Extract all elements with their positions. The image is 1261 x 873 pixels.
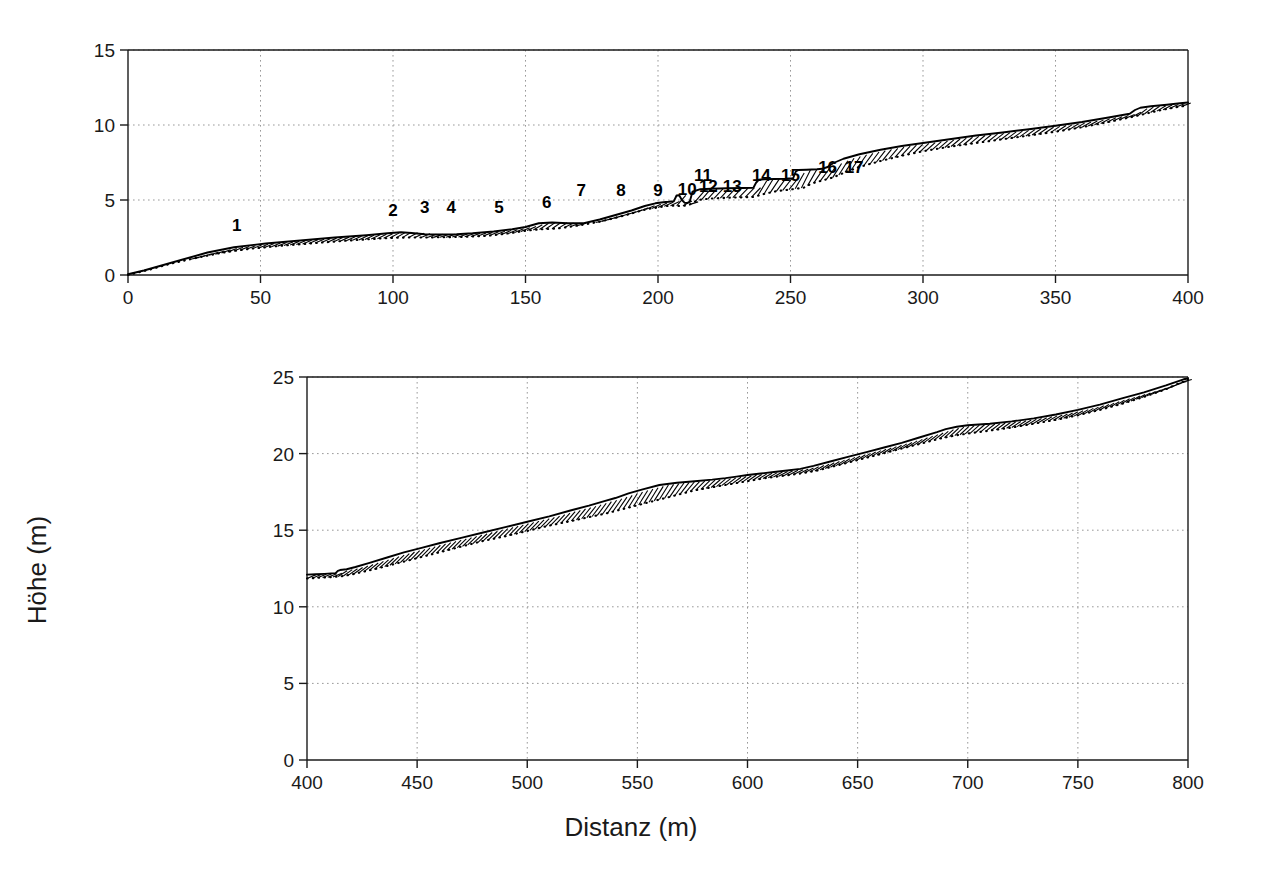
- profile-point-label: 9: [653, 181, 662, 200]
- x-axis-tick-label: 300: [907, 287, 939, 308]
- x-axis-tick-label: 500: [511, 772, 543, 793]
- x-axis-tick-label: 400: [1172, 287, 1204, 308]
- profile-point-label: 3: [420, 198, 429, 217]
- x-axis-tick-label: 200: [642, 287, 674, 308]
- y-axis-tick-label: 15: [273, 520, 294, 541]
- profile-point-label: 6: [542, 193, 551, 212]
- x-axis-tick-label: 550: [622, 772, 654, 793]
- x-axis-tick-label: 700: [952, 772, 984, 793]
- x-axis-tick-label: 450: [401, 772, 433, 793]
- x-axis-tick-label: 350: [1040, 287, 1072, 308]
- x-axis-tick-label: 400: [291, 772, 323, 793]
- x-axis-tick-label: 650: [842, 772, 874, 793]
- profile-point-label: 12: [699, 177, 718, 196]
- y-axis-tick-label: 15: [94, 40, 115, 61]
- x-axis-tick-label: 0: [123, 287, 134, 308]
- profile-point-label: 13: [723, 177, 742, 196]
- y-axis-tick-label: 5: [283, 673, 294, 694]
- x-axis-tick-label: 100: [377, 287, 409, 308]
- x-axis-tick-label: 600: [732, 772, 764, 793]
- y-axis-tick-label: 5: [104, 190, 115, 211]
- profile-point-label: 2: [388, 201, 397, 220]
- profile-point-label: 5: [494, 198, 503, 217]
- profile-point-label: 16: [818, 158, 837, 177]
- y-axis-tick-label: 0: [283, 750, 294, 771]
- terrain-profile-figure: 0510150501001502002503003504001234567891…: [0, 0, 1261, 873]
- x-axis-tick-label: 150: [510, 287, 542, 308]
- chart-page: 0510150501001502002503003504001234567891…: [0, 0, 1261, 873]
- y-axis-tick-label: 10: [94, 115, 115, 136]
- profile-point-label: 17: [845, 158, 864, 177]
- profile-point-label: 1: [232, 216, 241, 235]
- x-axis-tick-label: 250: [775, 287, 807, 308]
- x-axis-tick-label: 50: [250, 287, 271, 308]
- profile-point-label: 4: [447, 198, 457, 217]
- y-axis-tick-label: 10: [273, 597, 294, 618]
- profile-point-label: 8: [616, 181, 625, 200]
- figure-background: [0, 0, 1261, 873]
- y-axis-tick-label: 25: [273, 367, 294, 388]
- y-axis-title: Höhe (m): [22, 516, 52, 624]
- x-axis-tick-label: 800: [1172, 772, 1204, 793]
- profile-point-label: 15: [781, 166, 800, 185]
- y-axis-tick-label: 20: [273, 444, 294, 465]
- x-axis-tick-label: 750: [1062, 772, 1094, 793]
- x-axis-title: Distanz (m): [565, 812, 698, 842]
- profile-point-label: 14: [752, 166, 771, 185]
- profile-point-label: 7: [576, 181, 585, 200]
- y-axis-tick-label: 0: [104, 265, 115, 286]
